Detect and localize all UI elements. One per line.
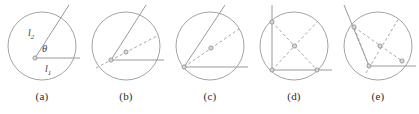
center-marker — [378, 44, 382, 48]
center-marker — [209, 46, 213, 50]
circle-point-marker — [352, 25, 356, 29]
corner-marker-top-left — [270, 20, 274, 24]
caption-a: (a) — [0, 90, 84, 102]
vertex-marker — [109, 58, 113, 62]
midpoint-marker — [124, 50, 128, 54]
ray-l2 — [35, 5, 69, 58]
caption-d: (d) — [252, 90, 336, 102]
panel-c-diagram — [168, 0, 252, 90]
label-l2: l2 — [28, 27, 35, 41]
panel-b-diagram — [84, 0, 168, 90]
center-marker — [292, 44, 296, 48]
panel-e-diagram — [336, 0, 419, 90]
panel-c: (c) — [168, 0, 252, 114]
ray-oblique — [184, 5, 225, 67]
corner-marker-bottom-left — [270, 68, 274, 72]
vertex-marker — [182, 65, 186, 69]
panel-d-diagram — [252, 0, 336, 90]
geometry-figure: l2 θ l1 (a) (b) — [0, 0, 419, 114]
vertex-marker — [367, 64, 371, 68]
panel-b: (b) — [84, 0, 168, 114]
vertex-marker — [33, 56, 37, 60]
panel-a: l2 θ l1 (a) — [0, 0, 84, 114]
chord-endpoint-marker — [400, 59, 404, 63]
caption-e: (e) — [336, 90, 419, 102]
panel-a-diagram: l2 θ l1 — [0, 0, 84, 90]
caption-b: (b) — [84, 90, 168, 102]
dashed-chord-1 — [354, 27, 402, 61]
corner-marker-bottom-right — [315, 68, 319, 72]
panel-d: (d) — [252, 0, 336, 114]
label-l1: l1 — [45, 63, 51, 77]
caption-c: (c) — [168, 90, 252, 102]
panel-e: (e) — [336, 0, 419, 114]
circle-outline — [92, 12, 160, 80]
label-theta: θ — [42, 43, 47, 54]
